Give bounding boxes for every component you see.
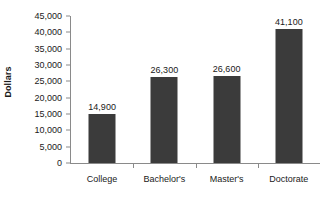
bar-value-label: 14,900 — [88, 102, 116, 112]
bar-group: 26,600 — [196, 16, 258, 163]
y-axis-tick-label: 10,000 — [34, 125, 62, 135]
y-axis-tick-mark — [66, 97, 70, 98]
x-axis-category-label: College — [87, 174, 118, 184]
bar-value-label: 41,100 — [275, 17, 303, 27]
y-axis-tick-label: 20,000 — [34, 93, 62, 103]
x-axis-category-label: Bachelor's — [144, 174, 186, 184]
y-axis-tick-label: 25,000 — [34, 76, 62, 86]
y-axis-tick-mark — [66, 81, 70, 82]
y-axis-tick-mark — [66, 114, 70, 115]
y-axis-tick-label: 15,000 — [34, 109, 62, 119]
plot-area: 14,90026,30026,60041,100 — [71, 16, 320, 163]
y-axis-tick-mark — [66, 16, 70, 17]
bar — [89, 114, 116, 163]
y-axis-tick-label: 5,000 — [39, 142, 62, 152]
y-axis-title: Dollars — [0, 0, 16, 163]
bar — [275, 29, 302, 163]
x-axis-category-label: Master's — [210, 174, 244, 184]
y-axis-tick-mark — [66, 130, 70, 131]
y-axis-tick-label: 35,000 — [34, 44, 62, 54]
bar — [213, 76, 240, 163]
x-axis-category-label: Doctorate — [269, 174, 308, 184]
x-axis-tick-mark — [196, 164, 197, 168]
y-axis-tick-label: 30,000 — [34, 60, 62, 70]
x-axis-tick-mark — [133, 164, 134, 168]
y-axis-tick-mark — [66, 146, 70, 147]
bar-value-label: 26,300 — [151, 65, 179, 75]
y-axis-tick-label: 40,000 — [34, 27, 62, 37]
y-axis-tick-label: 0 — [57, 158, 62, 168]
bar-group: 41,100 — [258, 16, 320, 163]
y-axis-tick-labels: 05,00010,00015,00020,00025,00030,00035,0… — [16, 0, 66, 170]
y-axis-title-label: Dollars — [3, 66, 13, 97]
y-axis-tick-label: 45,000 — [34, 11, 62, 21]
y-axis-tick-mark — [66, 48, 70, 49]
x-axis-tick-mark — [258, 164, 259, 168]
y-axis-tick-mark — [66, 65, 70, 66]
bar-chart: Dollars 05,00010,00015,00020,00025,00030… — [0, 0, 330, 202]
bar-group: 26,300 — [133, 16, 195, 163]
bar-group: 14,900 — [71, 16, 133, 163]
bar — [151, 77, 178, 163]
bar-value-label: 26,600 — [213, 64, 241, 74]
y-axis-tick-mark — [66, 163, 70, 164]
y-axis-tick-mark — [66, 32, 70, 33]
